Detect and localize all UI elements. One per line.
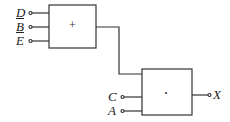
input-d-label: D (16, 6, 25, 19)
connection-wire (96, 27, 142, 74)
and-symbol: · (164, 86, 168, 101)
input-c-label: C (108, 90, 117, 103)
input-a-label: A (108, 104, 116, 117)
input-b-bar-label: B (16, 20, 24, 33)
output-x-label: X (213, 88, 221, 101)
or-symbol: + (69, 18, 76, 33)
input-e-bar-label: E (16, 34, 24, 47)
